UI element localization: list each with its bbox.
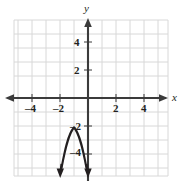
x-axis-label: x	[172, 92, 177, 103]
curve-arrow-left	[57, 169, 64, 179]
x-axis	[5, 94, 168, 102]
y-axis-label: y	[84, 3, 89, 14]
coordinate-plane-figure: –4 –2 2 4 4 2 –2 –4 x y	[0, 0, 182, 183]
x-tick-label-4: 4	[141, 103, 147, 114]
curve-arrow-right	[84, 169, 91, 179]
x-tick-label--2: –2	[53, 103, 64, 114]
x-tick-label--4: –4	[25, 103, 36, 114]
y-tick-label-2: 2	[74, 65, 80, 76]
x-tick-label-2: 2	[113, 103, 119, 114]
y-tick-label--4: –4	[70, 147, 81, 158]
y-tick-label-4: 4	[74, 37, 80, 48]
y-tick-label--2: –2	[70, 121, 81, 132]
graph-canvas	[0, 0, 182, 183]
